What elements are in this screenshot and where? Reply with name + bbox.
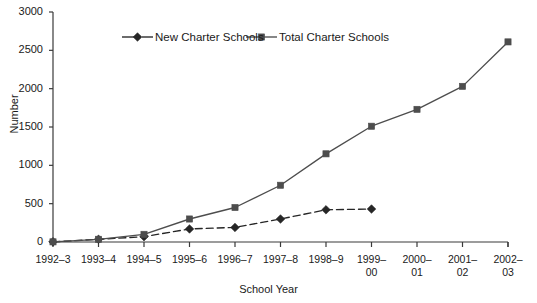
y-tick-label: 500 <box>3 197 43 209</box>
y-tick-label: 2500 <box>3 43 43 55</box>
chart-axes <box>49 12 508 247</box>
legend-item-new-charter-schools: New Charter Schools <box>155 31 264 43</box>
series-line <box>53 42 508 242</box>
y-tick-label: 1000 <box>3 158 43 170</box>
y-tick-label: 1500 <box>3 120 43 132</box>
y-tick-label: 3000 <box>3 5 43 17</box>
y-tick-label: 0 <box>3 235 43 247</box>
legend-item-total-charter-schools: Total Charter Schools <box>279 31 389 43</box>
chart-container: Number School Year 050010001500200025003… <box>0 0 537 303</box>
chart-series-group <box>49 39 511 246</box>
y-tick-label: 2000 <box>3 82 43 94</box>
x-axis-title: School Year <box>0 283 537 295</box>
x-tick-label: 2002–03 <box>481 253 535 279</box>
